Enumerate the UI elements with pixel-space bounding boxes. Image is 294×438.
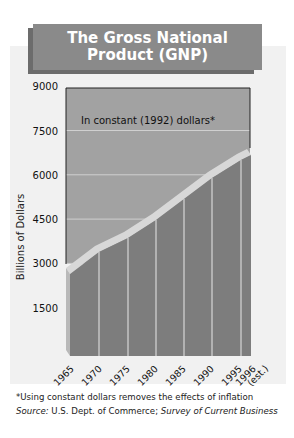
y-tick-label: 4500 [33, 214, 58, 225]
y-tick-label: 1500 [33, 303, 58, 314]
y-tick-labels: 150030004500600075009000 [33, 81, 58, 314]
y-tick-label: 3000 [33, 258, 58, 269]
x-tick-label: 1970 [79, 363, 104, 388]
source-label: Source: [16, 406, 49, 416]
x-tick-label: 1990 [191, 363, 216, 388]
area-left-side [66, 268, 70, 356]
units-annotation: In constant (1992) dollars* [81, 115, 215, 126]
x-tick-label: 1965 [51, 363, 76, 388]
x-tick-label: 1980 [135, 363, 160, 388]
y-axis-label: Billions of Dollars [15, 192, 29, 282]
y-tick-label: 6000 [33, 170, 58, 181]
chart-svg: 150030004500600075009000 196519701975198… [0, 0, 294, 438]
y-tick-label: 7500 [33, 126, 58, 137]
source-publication: Survey of Current Business [161, 406, 278, 416]
x-tick-label: 1975 [107, 363, 132, 388]
x-tick-labels: 19651970197519801985199019951996(est.) [51, 363, 270, 388]
y-tick-label: 9000 [33, 81, 58, 92]
footnote: *Using constant dollars removes the effe… [16, 392, 253, 402]
source-text: U.S. Dept. of Commerce; [49, 406, 161, 416]
source-line: Source: U.S. Dept. of Commerce; Survey o… [16, 406, 278, 416]
x-tick-label: 1985 [163, 363, 188, 388]
